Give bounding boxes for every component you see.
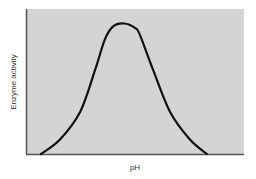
x-axis-label: pH (130, 163, 140, 172)
plot-area (26, 9, 244, 154)
chart: pH Enzyme activity (0, 0, 256, 179)
y-axis-label: Enzyme activity (9, 54, 18, 110)
